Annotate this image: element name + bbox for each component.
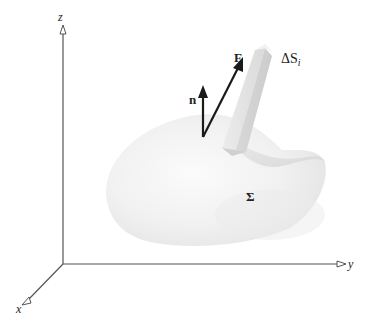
x-axis bbox=[28, 264, 63, 300]
x-arrowhead-icon bbox=[22, 297, 31, 305]
surface-label: Σ bbox=[246, 189, 255, 204]
normal-arrowhead-icon bbox=[198, 85, 208, 98]
y-arrowhead-icon bbox=[337, 261, 346, 267]
z-axis-label: z bbox=[57, 10, 63, 24]
field-vector-label: F bbox=[234, 50, 242, 65]
normal-vector-label: n bbox=[189, 92, 197, 107]
surface-sigma bbox=[106, 114, 326, 246]
y-axis-label: y bbox=[347, 257, 354, 271]
z-arrowhead-icon bbox=[60, 25, 66, 34]
surface-element-label: ΔSi bbox=[281, 51, 301, 68]
surface-integral-diagram: z y x n F ΔSi Σ bbox=[0, 0, 367, 328]
x-axis-label: x bbox=[15, 302, 22, 316]
